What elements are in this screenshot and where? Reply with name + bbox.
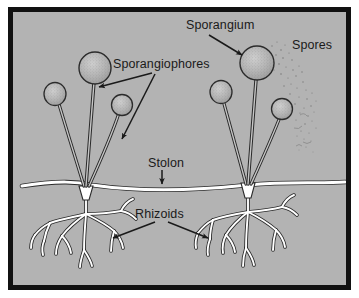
label-rhizoids: Rhizoids — [135, 207, 184, 221]
stolon-hypha — [22, 182, 345, 190]
spore-cloud — [271, 41, 316, 152]
arrow-rhizoids-left — [113, 222, 155, 238]
label-spores: Spores — [292, 38, 332, 52]
sporangium-right-small-b — [272, 99, 293, 120]
sporangia-right — [210, 46, 293, 120]
rhizoids-left — [31, 186, 136, 267]
label-sporangium: Sporangium — [186, 18, 254, 32]
right-mycelium-cluster — [196, 46, 297, 266]
rhizoids-right — [196, 183, 297, 266]
arrow-sporangium — [209, 35, 242, 55]
sporangium-left-large — [79, 52, 111, 84]
diagram-figure: Sporangium Sporangiophores Spores Stolon… — [0, 0, 359, 298]
sporangiophores-left — [58, 82, 119, 186]
label-stolon: Stolon — [148, 156, 184, 170]
sporangium-left-small-b — [112, 95, 133, 116]
sporangium-right-large — [240, 46, 274, 80]
sporangium-right-small-a — [210, 81, 232, 104]
label-sporangiophores: Sporangiophores — [113, 57, 210, 71]
sporangium-left-small-a — [44, 83, 66, 106]
